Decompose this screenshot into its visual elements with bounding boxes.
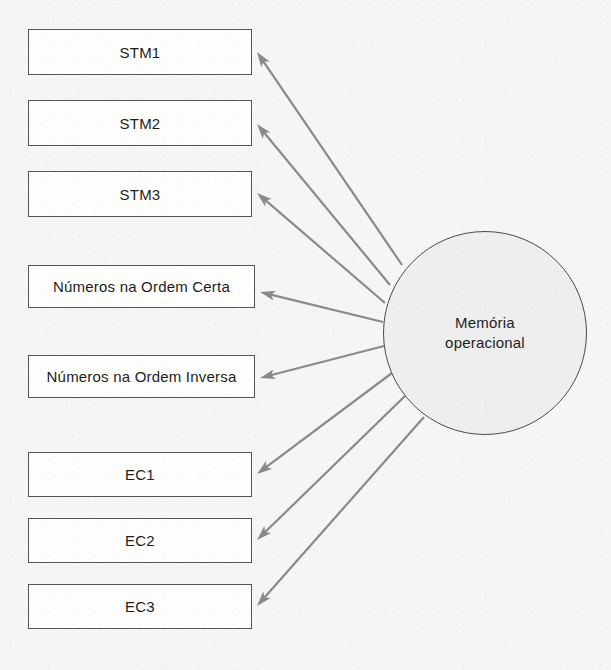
edge-memoria-operacional-to-stm1 <box>257 52 402 265</box>
indicator-label: STM3 <box>120 186 161 203</box>
edge-line <box>271 295 383 322</box>
indicator-box-stm2[interactable]: STM2 <box>28 100 252 146</box>
edge-line <box>264 417 424 598</box>
edge-arrowhead <box>257 52 270 67</box>
edge-memoria-operacional-to-ordem-certa <box>260 291 383 322</box>
indicator-box-stm3[interactable]: STM3 <box>28 171 252 217</box>
edge-line <box>266 373 392 467</box>
indicator-label: EC2 <box>125 532 155 549</box>
edge-line <box>263 61 402 265</box>
indicator-box-ec1[interactable]: EC1 <box>28 452 252 497</box>
indicator-box-ec2[interactable]: EC2 <box>28 518 252 563</box>
indicator-box-ordem-certa[interactable]: Números na Ordem Certa <box>28 265 255 308</box>
latent-variable-memoria-operacional[interactable]: Memória operacional <box>383 231 587 435</box>
edge-memoria-operacional-to-ec3 <box>257 417 424 606</box>
indicator-box-stm1[interactable]: STM1 <box>28 29 252 75</box>
indicator-label: EC1 <box>125 466 155 483</box>
edge-memoria-operacional-to-ec1 <box>257 373 392 474</box>
edge-memoria-operacional-to-stm3 <box>257 193 385 303</box>
diagram-canvas: STM1STM2STM3Números na Ordem CertaNúmero… <box>0 0 611 670</box>
edge-memoria-operacional-to-ordem-inversa <box>260 346 384 379</box>
edge-line <box>271 346 384 375</box>
indicator-label: Números na Ordem Inversa <box>47 368 237 385</box>
indicator-label: STM1 <box>120 44 161 61</box>
indicator-label: EC3 <box>125 598 155 615</box>
indicator-label: Números na Ordem Certa <box>53 278 230 295</box>
indicator-box-ec3[interactable]: EC3 <box>28 584 252 629</box>
indicator-label: STM2 <box>120 115 161 132</box>
edge-arrowhead <box>257 461 272 474</box>
latent-variable-label: Memória operacional <box>445 313 525 354</box>
indicator-box-ordem-inversa[interactable]: Números na Ordem Inversa <box>28 355 255 398</box>
